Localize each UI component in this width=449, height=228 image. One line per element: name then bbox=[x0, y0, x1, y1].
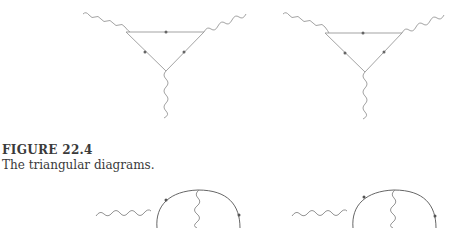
loop-diagram-right bbox=[292, 190, 437, 228]
fermion-loop bbox=[157, 190, 240, 228]
loop-diagram-left bbox=[96, 190, 241, 228]
arrow-icon bbox=[165, 31, 168, 34]
photon-line bbox=[164, 71, 168, 118]
triangle-diagram-left bbox=[83, 13, 246, 118]
fermion-loop bbox=[353, 190, 436, 228]
figure-caption: FIGURE 22.4 The triangular diagrams. bbox=[2, 143, 154, 172]
photon-line bbox=[96, 210, 151, 216]
arrow-icon bbox=[344, 52, 347, 55]
arrow-icon bbox=[183, 51, 186, 54]
feynman-diagrams bbox=[0, 0, 449, 228]
photon-line bbox=[204, 14, 246, 32]
photon-line bbox=[283, 13, 329, 33]
photon-line bbox=[292, 210, 347, 216]
photon-line bbox=[363, 72, 367, 119]
photon-line bbox=[195, 190, 200, 228]
triangle-diagram-right bbox=[283, 13, 444, 119]
arrow-icon bbox=[434, 215, 437, 218]
arrow-icon bbox=[383, 51, 386, 54]
photon-line bbox=[402, 15, 444, 33]
photon-line bbox=[391, 190, 396, 228]
arrow-icon bbox=[238, 214, 241, 217]
arrow-icon bbox=[144, 51, 147, 54]
arrow-icon bbox=[165, 199, 168, 202]
arrow-icon bbox=[362, 32, 365, 35]
photon-line bbox=[83, 13, 130, 32]
figure-caption-text: The triangular diagrams. bbox=[2, 158, 154, 172]
figure-label: FIGURE 22.4 bbox=[2, 143, 154, 157]
arrow-icon bbox=[363, 196, 366, 199]
